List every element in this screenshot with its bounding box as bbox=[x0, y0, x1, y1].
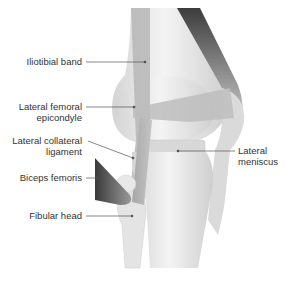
label-biceps-femoris: Biceps femoris bbox=[20, 172, 82, 183]
label-lateral-collateral-ligament: Lateral collateral ligament bbox=[12, 135, 82, 157]
label-text: Iliotibial band bbox=[27, 56, 82, 67]
label-text: Lateral femoral bbox=[19, 101, 82, 112]
label-text: meniscus bbox=[238, 156, 278, 167]
knee-diagram: Iliotibial band Lateral femoral epicondy… bbox=[0, 0, 289, 289]
label-text: Fibular head bbox=[29, 210, 82, 221]
label-text: ligament bbox=[12, 146, 82, 157]
label-fibular-head: Fibular head bbox=[29, 210, 82, 221]
label-text: Lateral collateral bbox=[12, 135, 82, 146]
femur bbox=[112, 8, 228, 144]
label-text: Biceps femoris bbox=[20, 172, 82, 183]
label-lateral-meniscus: Lateral meniscus bbox=[238, 145, 278, 167]
label-lateral-femoral-epicondyle: Lateral femoral epicondyle bbox=[19, 101, 82, 123]
label-iliotibial-band: Iliotibial band bbox=[27, 56, 82, 67]
label-text: epicondyle bbox=[19, 112, 82, 123]
label-text: Lateral bbox=[238, 145, 278, 156]
